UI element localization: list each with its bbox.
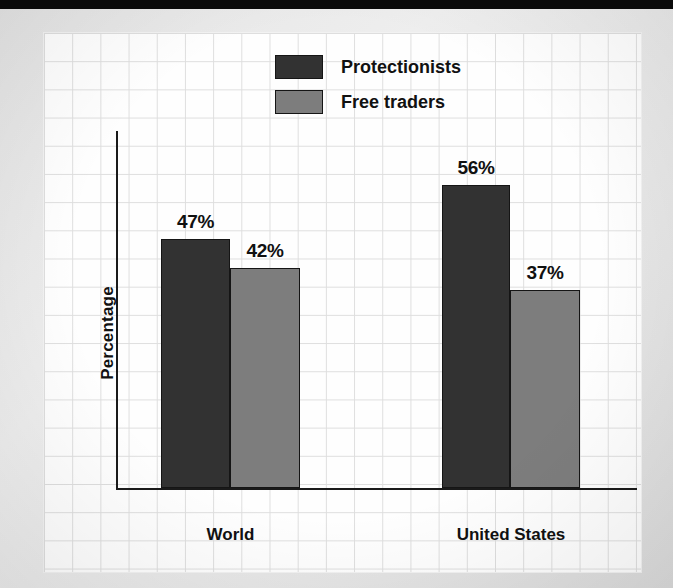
plot-area: Protectionists Free traders Percentage 4… bbox=[44, 33, 641, 572]
chart-screenshot: Protectionists Free traders Percentage 4… bbox=[0, 0, 673, 588]
legend-label-protectionists: Protectionists bbox=[341, 55, 461, 79]
bar-value-world-free-traders: 42% bbox=[230, 240, 300, 262]
chart-panel: Protectionists Free traders Percentage 4… bbox=[44, 33, 641, 572]
bar-united-states-protectionists bbox=[442, 185, 510, 488]
legend-label-free-traders: Free traders bbox=[341, 90, 445, 114]
bar-world-protectionists bbox=[161, 239, 230, 488]
page-top-black-border bbox=[0, 0, 673, 9]
x-axis-label-united-states: United States bbox=[442, 525, 580, 545]
bar-united-states-free-traders bbox=[510, 290, 580, 488]
legend-swatch-protectionists bbox=[275, 55, 323, 79]
legend-swatch-free-traders bbox=[275, 90, 323, 114]
bar-world-free-traders bbox=[230, 268, 300, 488]
x-axis-label-world: World bbox=[161, 525, 300, 545]
bar-value-united-states-protectionists: 56% bbox=[442, 157, 510, 179]
bar-value-world-protectionists: 47% bbox=[161, 211, 230, 233]
y-axis-title: Percentage bbox=[98, 263, 118, 403]
bar-value-united-states-free-traders: 37% bbox=[510, 262, 580, 284]
x-axis-line bbox=[116, 488, 637, 490]
